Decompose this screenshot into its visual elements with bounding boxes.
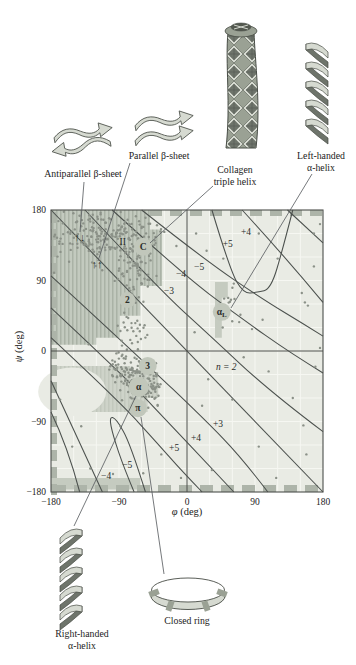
caption-antiparallel-beta-sheet: Antiparallel β-sheet <box>24 168 142 180</box>
contour-label: −4 <box>176 269 186 279</box>
y-tick-label: 90 <box>37 276 47 286</box>
contour-label: +3 <box>213 419 223 429</box>
closed-ring-icon <box>148 578 227 612</box>
contour-label: −4 <box>101 471 111 481</box>
y-tick-label: −180 <box>26 487 46 497</box>
symbol-label: ↑↓ <box>74 231 85 243</box>
contour-label: +4 <box>241 227 251 237</box>
y-axis-title: ψ (deg) <box>13 317 24 377</box>
y-tick-label: 180 <box>32 205 47 215</box>
contour-label: +5 <box>223 239 233 249</box>
contour-label: −5 <box>122 460 132 470</box>
ramachandran-figure: ↑↓↑↑IIC23απαLn = 2+4+5−5−4−3+3+4+5−5−4−1… <box>0 0 356 665</box>
caption-parallel-beta-sheet: Parallel β-sheet <box>103 150 215 162</box>
contour-label: +4 <box>191 433 201 443</box>
caption-collagen-triple-helix: Collagen triple helix <box>202 164 268 187</box>
caption-closed-ring: Closed ring <box>149 615 225 627</box>
x-tick-label: −90 <box>112 497 127 507</box>
left-handed-helix-icon <box>306 43 328 144</box>
x-axis-title: φ (deg) <box>158 506 216 517</box>
caption-right-handed-alpha-helix: Right-handed α-helix <box>43 628 121 651</box>
symbol-label: 2 <box>125 295 130 305</box>
contour-label: −3 <box>164 286 174 296</box>
figure-canvas: ↑↓↑↑IIC23απαLn = 2+4+5−5−4−3+3+4+5−5−4−1… <box>0 0 356 665</box>
symbol-label: α <box>136 382 142 392</box>
contour-label: +5 <box>169 443 179 453</box>
y-tick-label: −90 <box>31 417 46 427</box>
beta-strand-arrow-right <box>134 124 195 148</box>
alpha-region-cutout <box>38 367 106 416</box>
symbol-label: ↑↑ <box>92 258 103 270</box>
symbol-label: 3 <box>145 361 150 371</box>
symbol-label: II <box>120 237 126 247</box>
x-tick-label: 180 <box>316 497 331 507</box>
caption-left-handed-alpha-helix: Left-handed α-helix <box>288 150 354 173</box>
x-tick-label: 90 <box>250 497 260 507</box>
x-tick-label: −180 <box>41 497 61 507</box>
y-tick-label: 0 <box>41 346 46 356</box>
symbol-label: n = 2 <box>216 362 237 372</box>
contour-label: −5 <box>194 262 204 272</box>
symbol-label: π <box>135 403 141 413</box>
symbol-label: C <box>140 242 147 252</box>
right-handed-helix-icon <box>60 529 82 630</box>
collagen-triple-helix-icon <box>225 23 258 148</box>
